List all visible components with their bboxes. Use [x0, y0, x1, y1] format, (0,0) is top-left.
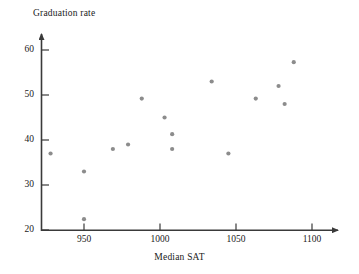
data-point	[170, 147, 174, 151]
data-point	[283, 102, 287, 106]
y-axis-ticks	[42, 50, 50, 230]
data-point	[254, 97, 258, 101]
scatter-plot-figure: Graduation rate Median SAT 60 50 40 30 2…	[0, 0, 359, 274]
data-point	[82, 217, 86, 221]
data-point	[162, 115, 166, 119]
y-tick-label-50: 50	[12, 89, 34, 99]
data-point	[170, 132, 174, 136]
data-point	[210, 79, 214, 83]
x-axis-ticks	[84, 224, 312, 231]
data-point	[276, 84, 280, 88]
data-point	[292, 60, 296, 64]
y-tick-label-60: 60	[12, 44, 34, 54]
data-point	[111, 147, 115, 151]
x-tick-label-1050: 1050	[216, 234, 256, 244]
data-point	[48, 151, 52, 155]
data-point	[82, 169, 86, 173]
y-axis-title: Graduation rate	[33, 8, 95, 18]
data-point-group	[48, 60, 295, 221]
data-point	[126, 142, 130, 146]
data-point	[226, 151, 230, 155]
y-tick-label-40: 40	[12, 134, 34, 144]
x-tick-label-1000: 1000	[140, 234, 180, 244]
y-tick-label-20: 20	[12, 224, 34, 234]
data-point	[140, 97, 144, 101]
x-axis-title: Median SAT	[0, 252, 359, 262]
plot-canvas	[0, 0, 359, 274]
y-tick-label-30: 30	[12, 179, 34, 189]
x-tick-label-1100: 1100	[292, 234, 332, 244]
x-tick-label-950: 950	[64, 234, 104, 244]
